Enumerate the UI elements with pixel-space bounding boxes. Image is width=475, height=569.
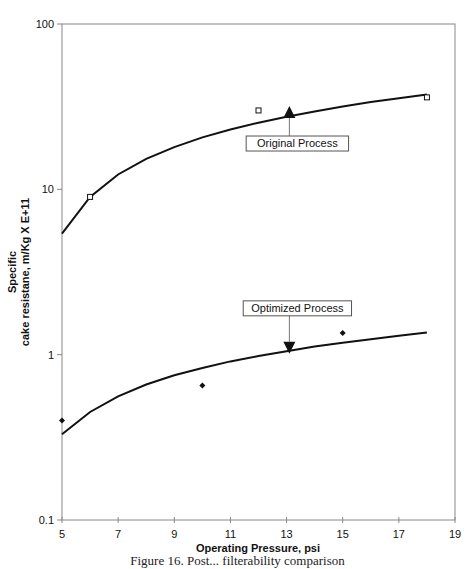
x-tick-label: 5 <box>59 528 65 540</box>
square-marker <box>88 194 93 199</box>
cake-resistance-chart: 0.1110100 5791113151719 Original Process… <box>0 0 475 569</box>
y-tick-label: 0.1 <box>39 514 54 526</box>
y-tick-label: 10 <box>42 183 54 195</box>
fit-curve <box>62 333 427 435</box>
y-axis-ticks: 0.1110100 <box>36 18 62 526</box>
annotations: Original ProcessOptimized Process <box>243 106 351 354</box>
diamond-marker <box>340 330 346 336</box>
y-tick-label: 1 <box>48 349 54 361</box>
data-points <box>59 95 429 424</box>
diamond-marker <box>59 417 65 423</box>
arrow-up-icon <box>283 106 295 118</box>
x-tick-label: 17 <box>393 528 405 540</box>
y-axis-title-line1: Specific <box>6 251 18 293</box>
figure-caption: Figure 16. Post... filterability compari… <box>0 553 475 569</box>
x-tick-label: 7 <box>115 528 121 540</box>
x-tick-label: 19 <box>449 528 461 540</box>
x-tick-label: 11 <box>225 528 236 540</box>
y-axis-title-line2: cake resistane, m/Kg X E+11 <box>19 198 31 346</box>
fit-curve <box>62 94 427 233</box>
annotation-label: Original Process <box>257 137 338 149</box>
x-tick-label: 13 <box>280 528 292 540</box>
y-tick-label: 100 <box>36 18 54 30</box>
annotation-label: Optimized Process <box>251 302 344 314</box>
square-marker <box>256 108 261 113</box>
fit-curves <box>62 94 427 434</box>
diamond-marker <box>199 383 205 389</box>
x-tick-label: 9 <box>171 528 177 540</box>
square-marker <box>424 95 429 100</box>
x-tick-label: 15 <box>337 528 349 540</box>
